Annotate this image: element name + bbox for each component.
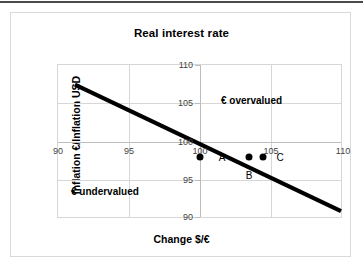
- x-tick-label-100: 100: [192, 146, 207, 156]
- x-tick-label-90: 90: [53, 146, 63, 156]
- data-point-b-label: B: [246, 170, 253, 181]
- y-tick-label-110: 110: [163, 60, 193, 70]
- x-tick-label-105: 105: [263, 146, 278, 156]
- top-divider-rule: [0, 1, 363, 3]
- y-tick-label-100: 100: [163, 137, 193, 147]
- chart-screenshot: Real interest rate Inflation €/Inflation…: [0, 0, 363, 273]
- ytick-mark-90: [195, 217, 200, 218]
- chart-title: Real interest rate: [11, 27, 352, 39]
- annotation-euro-overvalued: € overvalued: [221, 95, 282, 106]
- y-tick-label-105: 105: [163, 98, 193, 108]
- chart-container: Real interest rate Inflation €/Inflation…: [10, 12, 351, 257]
- x-axis-title: Change $/€: [11, 233, 352, 245]
- plot-area: A B C € overvalued € undervalued 110 105…: [57, 64, 342, 218]
- y-tick-label-90: 90: [163, 212, 193, 222]
- data-point-a-label: A: [219, 152, 226, 163]
- x-tick-label-95: 95: [124, 146, 134, 156]
- x-tick-label-110: 110: [336, 146, 350, 156]
- y-tick-label-95: 95: [163, 175, 193, 185]
- annotation-euro-undervalued: € undervalued: [71, 186, 139, 197]
- data-point-b: [246, 154, 253, 161]
